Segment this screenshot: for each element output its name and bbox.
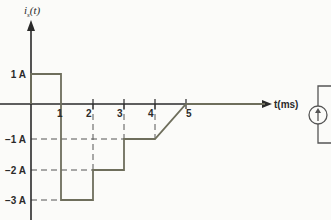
- y-tick-label-neg1a: −1 A: [5, 134, 26, 145]
- current-waveform: [31, 74, 265, 200]
- y-axis-arrow-icon: [27, 20, 35, 31]
- y-axis-label: is(t): [24, 4, 41, 19]
- y-axis: [27, 20, 35, 220]
- x-tick-label-1: 1: [57, 108, 63, 119]
- x-tick-label-5: 5: [186, 108, 192, 119]
- y-tick-label-neg3a: −3 A: [5, 195, 26, 206]
- waveform-figure: is(t) 1 A −1 A −2 A −3 A 1 2 3 4 5 t(ms): [0, 0, 331, 220]
- y-tick-label-neg2a: −2 A: [5, 165, 26, 176]
- x-tick-label-4: 4: [148, 108, 154, 119]
- x-tick-label-2: 2: [86, 108, 92, 119]
- x-tick-label-3: 3: [117, 108, 123, 119]
- x-axis-label: t(ms): [274, 99, 298, 110]
- y-tick-label-1a: 1 A: [11, 69, 26, 80]
- current-source-icon: [309, 86, 331, 143]
